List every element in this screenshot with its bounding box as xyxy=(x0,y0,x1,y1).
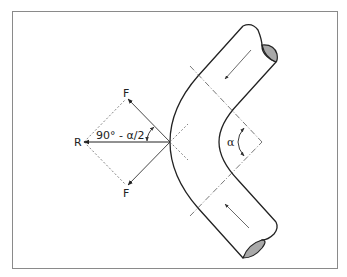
dashed-bottom-left xyxy=(84,142,126,185)
flow-arrow-bottom xyxy=(225,204,249,228)
bend-angle-label: α xyxy=(227,136,235,149)
angle-label: 90° - α/2 xyxy=(96,129,144,142)
flow-arrow-top xyxy=(225,50,251,79)
force-label-lower: F xyxy=(123,187,129,200)
resultant-label: R xyxy=(74,136,82,149)
resultant-angle-arc xyxy=(147,127,154,141)
pipe-bend-diagram: α F F R 90° - α/2 xyxy=(0,0,347,277)
pipe-bottom-end-cut xyxy=(243,240,265,258)
bend-angle-arc xyxy=(238,128,244,156)
force-label-upper: F xyxy=(123,87,129,100)
dashed-ext-lower xyxy=(170,142,188,160)
dashed-ext-upper xyxy=(170,124,188,142)
force-vector-lower xyxy=(128,142,170,185)
